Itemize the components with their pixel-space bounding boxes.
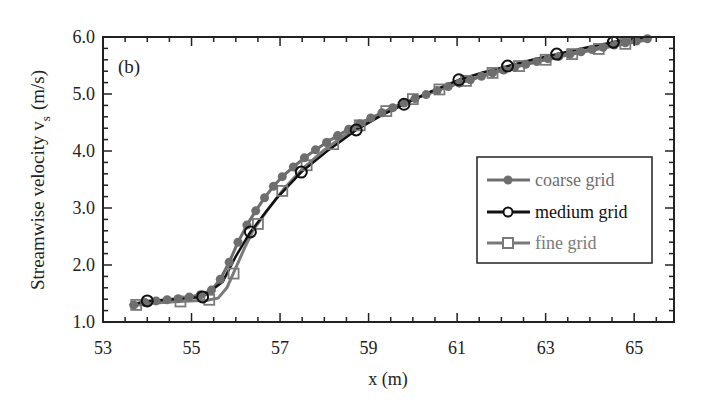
data-point	[588, 45, 597, 54]
data-point	[129, 300, 138, 309]
x-tick-label: 63	[537, 338, 555, 358]
x-tick-label: 55	[183, 338, 201, 358]
data-point	[225, 258, 234, 267]
x-tick-label: 57	[271, 338, 289, 358]
data-point	[565, 50, 574, 59]
legend-label: fine grid	[535, 233, 596, 253]
data-point	[251, 206, 260, 215]
y-tick-label: 2.0	[73, 255, 96, 275]
data-point	[388, 103, 397, 112]
data-point	[377, 108, 386, 117]
x-tick-labels: 53555759616365	[94, 338, 643, 358]
data-point	[269, 182, 278, 191]
legend-label: medium grid	[535, 202, 628, 222]
open-square-icon	[503, 238, 513, 248]
x-tick-label: 61	[448, 338, 466, 358]
data-point	[185, 292, 194, 301]
x-tick-label: 53	[94, 338, 112, 358]
y-axis-label-subscript: s	[38, 116, 53, 121]
data-point	[260, 193, 269, 202]
data-point	[234, 238, 243, 247]
data-point	[333, 131, 342, 140]
x-tick-label: 65	[625, 338, 643, 358]
data-point	[477, 72, 486, 81]
data-point	[532, 57, 541, 66]
data-point	[577, 47, 586, 56]
data-point	[599, 43, 608, 52]
legend: coarse grid medium grid fine grid	[477, 157, 652, 263]
data-point	[322, 138, 331, 147]
data-point	[366, 113, 375, 122]
data-point	[433, 86, 442, 95]
data-point	[207, 286, 216, 295]
y-axis-label-main: Streamwise velocity v	[27, 121, 48, 290]
panel-label: (b)	[118, 56, 140, 78]
data-point	[643, 34, 652, 43]
svg-text:Streamwise velocity vs(m/s): Streamwise velocity vs(m/s)	[27, 70, 53, 290]
data-point	[216, 275, 225, 284]
open-circle-icon	[504, 208, 513, 217]
data-point	[422, 90, 431, 99]
data-point	[278, 172, 287, 181]
data-point	[300, 153, 309, 162]
data-point	[621, 38, 630, 47]
y-tick-label: 4.0	[73, 141, 96, 161]
x-axis-label: x (m)	[368, 369, 408, 390]
x-tick-label: 59	[360, 338, 378, 358]
y-tick-label: 3.0	[73, 198, 96, 218]
y-axis-label: Streamwise velocity vs(m/s)	[27, 70, 53, 290]
data-point	[174, 294, 183, 303]
data-point	[163, 295, 172, 304]
legend-label: coarse grid	[535, 170, 614, 190]
data-point	[444, 82, 453, 91]
data-point	[411, 94, 420, 103]
y-tick-label: 5.0	[73, 84, 96, 104]
data-point	[488, 68, 497, 77]
y-tick-label: 6.0	[73, 27, 96, 47]
y-tick-labels: 1.02.03.04.05.06.0	[73, 27, 96, 332]
data-point	[466, 75, 475, 84]
data-point	[311, 145, 320, 154]
y-axis-label-units: (m/s)	[27, 70, 49, 110]
y-tick-label: 1.0	[73, 312, 96, 332]
velocity-chart: 53555759616365 1.02.03.04.05.06.0 (b) x …	[0, 0, 709, 402]
filled-circle-icon	[504, 176, 513, 185]
data-point	[521, 60, 530, 69]
